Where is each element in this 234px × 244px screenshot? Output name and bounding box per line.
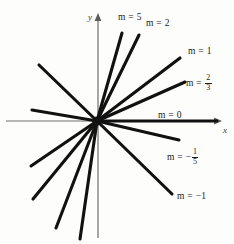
annotation-m-2: m = 2 bbox=[146, 19, 170, 29]
plot-canvas bbox=[0, 0, 234, 244]
annotation-minus-sign: − bbox=[186, 152, 192, 162]
y-axis-arrow-icon bbox=[95, 13, 102, 21]
line-family-figure: y x m = 5 m = 2 m = 1 m = 23 m = 0 m = −… bbox=[0, 0, 234, 244]
slope-line-m-neg-1-5 bbox=[97, 121, 179, 140]
y-axis-label: y bbox=[88, 13, 92, 22]
annotation-m-5: m = 5 bbox=[118, 13, 142, 23]
x-axis-label: x bbox=[223, 126, 227, 135]
slope-line-m-neg-1 bbox=[97, 121, 172, 194]
fraction-numerator: 1 bbox=[192, 148, 198, 156]
origin-point bbox=[92, 116, 101, 125]
fraction-one-fifth: 15 bbox=[192, 148, 198, 167]
fraction-denominator: 3 bbox=[205, 84, 211, 92]
annotation-m-neg-1-5-lead: m = bbox=[167, 152, 186, 162]
annotation-m-0: m = 0 bbox=[158, 111, 182, 121]
fraction-denominator: 5 bbox=[192, 158, 198, 166]
annotation-m-neg-1-5: m = −15 bbox=[167, 148, 199, 167]
annotation-m-neg-1: m = −1 bbox=[177, 192, 206, 202]
slope-lines-group bbox=[31, 33, 217, 239]
annotation-m-2-3-lead: m = bbox=[186, 78, 205, 88]
annotation-m-1: m = 1 bbox=[188, 47, 212, 57]
fraction-two-thirds: 23 bbox=[205, 74, 211, 93]
fraction-numerator: 2 bbox=[205, 74, 211, 82]
annotation-m-2-3: m = 23 bbox=[186, 74, 212, 93]
